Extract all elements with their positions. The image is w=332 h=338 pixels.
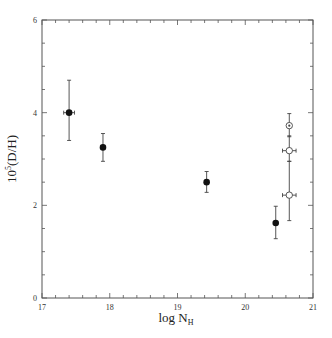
x-tick-label: 17 xyxy=(38,303,46,312)
data-point xyxy=(100,134,107,162)
filled-circle-marker xyxy=(66,109,73,116)
y-tick-label: 2 xyxy=(33,201,37,210)
filled-circle-marker xyxy=(203,179,210,186)
x-axis-label: log NH xyxy=(158,310,193,327)
tick-labels: 17181920210246 xyxy=(33,16,317,312)
y-axis-label: 105(D/H) xyxy=(4,135,19,183)
data-points xyxy=(64,80,296,238)
filled-circle-marker xyxy=(100,144,107,151)
x-axis-label-main: log N xyxy=(158,310,188,325)
y-tick-label: 6 xyxy=(33,16,37,25)
axis-ticks xyxy=(42,20,313,298)
y-axis-label-rest: (D/H) xyxy=(4,135,19,166)
plot-frame xyxy=(42,20,313,298)
open-circle-marker xyxy=(286,147,292,153)
data-point xyxy=(283,136,297,161)
data-point xyxy=(203,172,210,193)
y-tick-label: 0 xyxy=(33,294,37,303)
data-point xyxy=(272,206,279,238)
y-axis-label-main: 10 xyxy=(4,170,19,183)
x-axis-label-sub: H xyxy=(188,318,194,327)
data-point xyxy=(64,80,75,140)
open-circle-marker xyxy=(286,192,292,198)
x-tick-label: 18 xyxy=(106,303,114,312)
scatter-chart: 17181920210246 log NH 105(D/H) xyxy=(0,0,332,338)
x-tick-label: 21 xyxy=(309,303,317,312)
data-point xyxy=(283,161,297,220)
y-tick-label: 4 xyxy=(33,109,37,118)
data-point xyxy=(286,114,292,137)
x-tick-label: 20 xyxy=(241,303,249,312)
filled-circle-marker xyxy=(272,220,279,227)
